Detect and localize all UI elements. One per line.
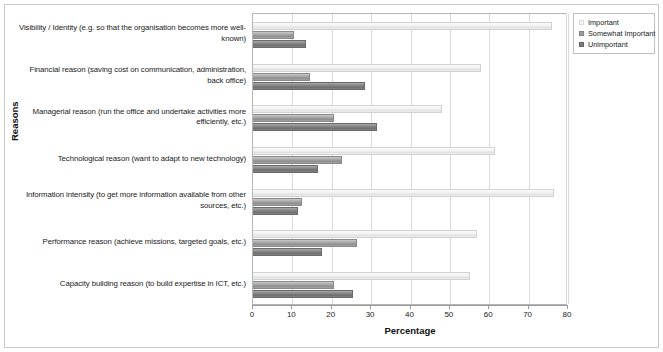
x-tick-mark: [291, 305, 292, 309]
bar-group: [253, 223, 566, 265]
x-tick-mark: [488, 305, 489, 309]
bar-important: [253, 22, 552, 30]
category-label: Visibility / Identity (e.g. so that the …: [16, 23, 246, 44]
bar-unimportant: [253, 165, 318, 173]
legend-item-important[interactable]: Important: [577, 17, 651, 27]
bar-group: [253, 264, 566, 306]
legend-swatch-somewhat-important-icon: [579, 31, 584, 36]
x-tick-label: 0: [240, 310, 264, 319]
x-tick-mark: [567, 305, 568, 309]
x-tick-label: 70: [516, 310, 540, 319]
x-axis-title: Percentage: [252, 325, 568, 336]
x-tick-label: 10: [279, 310, 303, 319]
x-tick-label: 60: [476, 310, 500, 319]
chart-figure: Reasons Visibility / Identity (e.g. so t…: [0, 0, 663, 352]
category-label: Capacity building reason (to build exper…: [16, 279, 246, 290]
x-tick-label: 30: [358, 310, 382, 319]
bar-important: [253, 64, 481, 72]
x-tick-mark: [410, 305, 411, 309]
bar-unimportant: [253, 40, 306, 48]
bar-somewhat-important: [253, 156, 342, 164]
legend-label-unimportant: Unimportant: [588, 40, 628, 49]
x-tick-mark: [331, 305, 332, 309]
bar-group: [253, 56, 566, 98]
legend-swatch-unimportant-icon: [579, 42, 584, 47]
legend-swatch-important-icon: [579, 20, 584, 25]
category-label: Managerial reason (run the office and un…: [16, 107, 246, 128]
bar-group: [253, 97, 566, 139]
x-tick-label: 40: [398, 310, 422, 319]
bar-unimportant: [253, 82, 365, 90]
bar-group: [253, 139, 566, 181]
legend-item-somewhat-important[interactable]: Somewhat Important: [577, 28, 651, 38]
bar-important: [253, 105, 442, 113]
bar-unimportant: [253, 207, 298, 215]
bar-unimportant: [253, 248, 322, 256]
bar-important: [253, 230, 477, 238]
bar-somewhat-important: [253, 114, 334, 122]
plot-area: [252, 13, 567, 305]
bar-unimportant: [253, 123, 377, 131]
legend-label-somewhat-important: Somewhat Important: [588, 29, 655, 38]
category-label: Financial reason (saving cost on communi…: [16, 65, 246, 86]
bar-important: [253, 189, 554, 197]
category-label: Performance reason (achieve missions, ta…: [16, 237, 246, 248]
bar-somewhat-important: [253, 239, 357, 247]
bar-group: [253, 14, 566, 56]
x-tick-label: 50: [437, 310, 461, 319]
legend-item-unimportant[interactable]: Unimportant: [577, 39, 651, 49]
bar-somewhat-important: [253, 73, 310, 81]
bar-somewhat-important: [253, 281, 334, 289]
category-label: Information intensity (to get more infor…: [16, 190, 246, 211]
x-tick-label: 20: [319, 310, 343, 319]
x-tick-mark: [370, 305, 371, 309]
bar-somewhat-important: [253, 198, 302, 206]
bar-important: [253, 272, 470, 280]
x-tick-mark: [449, 305, 450, 309]
gridline: [568, 14, 569, 304]
bar-unimportant: [253, 290, 353, 298]
chart-legend: Important Somewhat Important Unimportant: [573, 13, 655, 54]
legend-label-important: Important: [588, 18, 619, 27]
x-tick-mark: [252, 305, 253, 309]
category-label: Technological reason (want to adapt to n…: [16, 154, 246, 165]
x-tick-label: 80: [555, 310, 579, 319]
bar-somewhat-important: [253, 31, 294, 39]
bar-group: [253, 181, 566, 223]
x-tick-mark: [528, 305, 529, 309]
bar-important: [253, 147, 495, 155]
